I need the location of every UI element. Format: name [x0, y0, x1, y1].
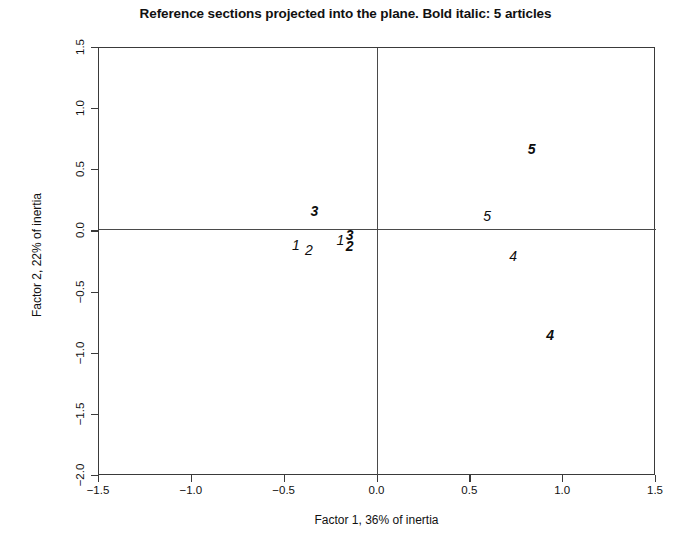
y-axis-tick-label: 1.5: [74, 29, 86, 65]
y-axis-tick: [91, 414, 98, 415]
chart-canvas: Reference sections projected into the pl…: [0, 0, 691, 548]
x-axis-tick-label: 1.0: [554, 484, 570, 496]
x-axis-tick-label: −1.0: [179, 484, 202, 496]
x-axis-tick-label: −1.5: [87, 484, 110, 496]
y-axis-tick-label: −2.0: [74, 457, 86, 493]
x-axis-tick: [284, 475, 285, 482]
y-axis-tick: [91, 230, 98, 231]
data-point-label: 4: [546, 328, 554, 342]
plot-area: 3121325544: [98, 47, 655, 475]
x-axis-tick: [377, 475, 378, 482]
y-axis-tick: [91, 353, 98, 354]
y-axis-tick-label: 0.0: [74, 212, 86, 248]
data-point-label: 2: [346, 239, 354, 253]
x-axis-tick-label: 1.5: [647, 484, 663, 496]
y-axis-tick: [91, 292, 98, 293]
x-axis-label: Factor 1, 36% of inertia: [98, 513, 655, 527]
y-axis-tick: [91, 108, 98, 109]
y-axis-tick: [91, 47, 98, 48]
data-point-label: 1: [292, 238, 300, 252]
y-axis-tick-label: 0.5: [74, 151, 86, 187]
y-axis-tick: [91, 475, 98, 476]
x-axis-tick-label: −0.5: [272, 484, 295, 496]
data-point-label: 4: [509, 249, 517, 263]
data-point-label: 5: [483, 209, 491, 223]
data-point-label: 5: [528, 142, 536, 156]
x-axis-tick: [655, 475, 656, 482]
y-axis-tick-label: −0.5: [74, 274, 86, 310]
x-axis-tick-label: 0.0: [369, 484, 385, 496]
chart-title: Reference sections projected into the pl…: [0, 6, 691, 21]
x-axis-tick: [98, 475, 99, 482]
data-point-label: 3: [310, 204, 318, 218]
y-axis-tick: [91, 169, 98, 170]
x-axis-tick-label: 0.5: [461, 484, 477, 496]
x-axis-tick: [191, 475, 192, 482]
y-axis-tick-label: −1.0: [74, 335, 86, 371]
zero-line-vertical: [377, 48, 378, 476]
y-axis-tick-label: −1.5: [74, 396, 86, 432]
data-point-label: 1: [336, 233, 344, 247]
y-axis-label: Factor 2, 22% of inertia: [30, 155, 44, 355]
y-axis-tick-label: 1.0: [74, 90, 86, 126]
x-axis-tick: [562, 475, 563, 482]
x-axis-tick: [469, 475, 470, 482]
data-point-label: 2: [305, 243, 313, 257]
